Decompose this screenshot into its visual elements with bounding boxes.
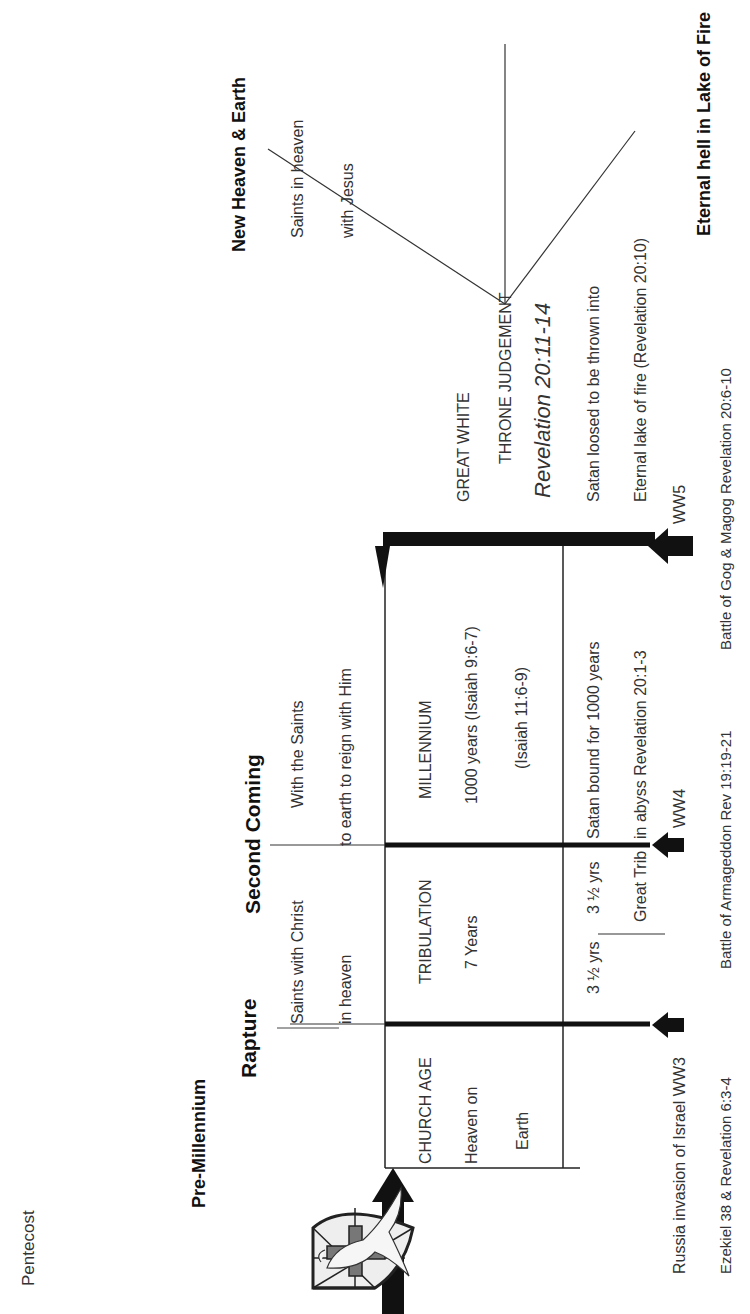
second-coming-note-2: to earth to reign with Him [338, 668, 354, 846]
judgement-note-1: Satan loosed to be thrown into [586, 286, 602, 502]
new-heaven-earth-label: New Heaven & Earth [230, 77, 248, 252]
millennium-line-3: (Isaiah 11:6-9) [514, 667, 530, 769]
ww4-label: WW4 [672, 789, 688, 828]
pentecost-label: Pentecost [20, 1210, 37, 1286]
rapture-label: Rapture [238, 999, 259, 1078]
judgement-line-2: THRONE JUDGEMENT [498, 292, 514, 464]
judgement-line-1: GREAT WHITE [456, 392, 472, 502]
timeline-diagram: Pentecost Pre-Millennium Rapture Second … [0, 0, 750, 1314]
church-age-line-2: Heaven on [464, 1087, 480, 1164]
second-half-label: 3 ½ yrs [586, 862, 602, 914]
church-age-title: CHURCH AGE [418, 1057, 434, 1164]
great-trib-label: Great Trib [633, 851, 649, 922]
ww4-arrow-icon [652, 832, 684, 858]
church-age-line-3: Earth [515, 1112, 531, 1150]
tribulation-years: 7 Years [464, 916, 480, 969]
satan-bound-line-1: Satan bound for 1000 years [586, 642, 602, 839]
second-coming-note-1: With the Saints [290, 700, 306, 808]
millennium-title: MILLENNIUM [418, 700, 434, 799]
ww5-reference: Battle of Gog & Magog Revelation 20:6-10 [718, 368, 733, 650]
new-heaven-note-1: Saints in heaven [290, 120, 306, 238]
judgement-reference: Revelation 20:11-14 [532, 303, 554, 498]
pre-millennium-title: Pre-Millennium [190, 1079, 208, 1208]
millennium-line-2: 1000 years (Isaiah 9:6-7) [464, 626, 480, 804]
new-heaven-note-2: with Jesus [340, 163, 356, 238]
second-coming-label: Second Coming [242, 754, 263, 914]
satan-bound-line-2: in abyss Revelation 20:1-3 [633, 650, 649, 839]
rapture-note-2: in heaven [338, 955, 354, 1024]
tribulation-title: TRIBULATION [418, 879, 434, 984]
ww5-label: WW5 [672, 485, 688, 524]
ww3-label: Russia invasion of Israel WW3 [672, 1057, 688, 1274]
ww3-arrow-icon [652, 1012, 684, 1038]
eternal-hell-label: Eternal hell in Lake of Fire [695, 12, 713, 236]
ww4-reference: Battle of Armageddon Rev 19:19-21 [718, 731, 733, 970]
rapture-note-1: Saints with Christ [290, 900, 306, 1024]
judgement-note-2: Eternal lake of fire (Revelation 20:10) [633, 238, 649, 502]
first-half-label: 3 ½ yrs [586, 942, 602, 994]
shield-cross-dove-icon [305, 1186, 425, 1298]
ww3-reference: Ezekiel 38 & Revelation 6:3-4 [718, 1077, 733, 1274]
